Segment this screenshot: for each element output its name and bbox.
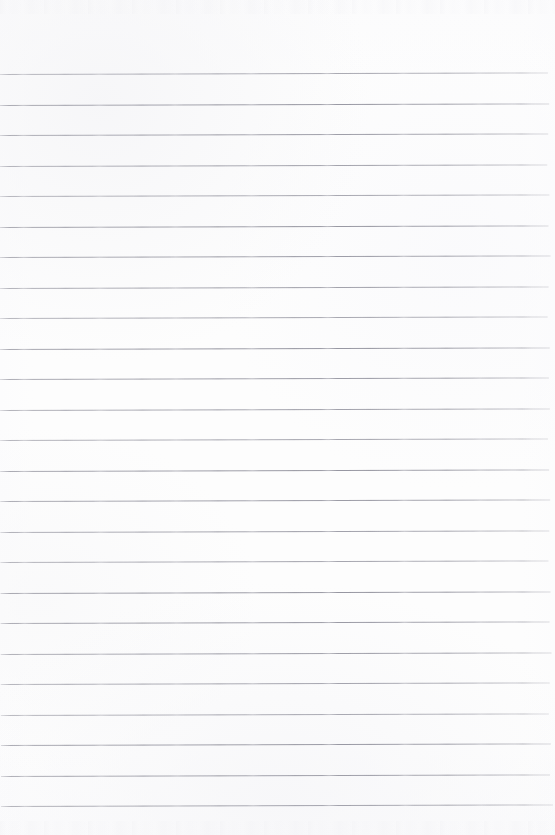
paper-background (0, 0, 555, 835)
scanned-page (0, 0, 555, 835)
